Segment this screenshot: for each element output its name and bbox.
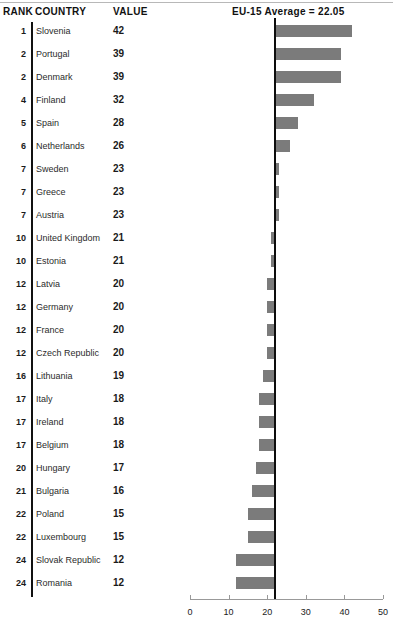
cell-rank: 7 <box>0 210 26 220</box>
cell-value: 18 <box>113 439 124 450</box>
cell-country: Czech Republic <box>36 348 99 358</box>
cell-rank: 17 <box>0 394 26 404</box>
table-row: 10United Kingdom21 <box>0 229 393 252</box>
cell-value: 21 <box>113 255 124 266</box>
table-row: 24Romania12 <box>0 574 393 597</box>
cell-country: Latvia <box>36 279 60 289</box>
cell-country: Lithuania <box>36 371 73 381</box>
cell-country: United Kingdom <box>36 233 100 243</box>
cell-value: 15 <box>113 531 124 542</box>
table-row: 5Spain28 <box>0 114 393 137</box>
cell-country: Slovenia <box>36 26 71 36</box>
cell-country: Denmark <box>36 72 73 82</box>
cell-rank: 1 <box>0 26 26 36</box>
table-row: 1Slovenia42 <box>0 22 393 45</box>
table-row: 6Netherlands26 <box>0 137 393 160</box>
cell-rank: 22 <box>0 532 26 542</box>
cell-country: Ireland <box>36 417 64 427</box>
cell-value: 26 <box>113 140 124 151</box>
cell-value: 39 <box>113 71 124 82</box>
table-row: 10Estonia21 <box>0 252 393 275</box>
cell-value: 32 <box>113 94 124 105</box>
cell-country: Luxembourg <box>36 532 86 542</box>
cell-rank: 16 <box>0 371 26 381</box>
cell-value: 39 <box>113 48 124 59</box>
cell-rank: 20 <box>0 463 26 473</box>
cell-rank: 5 <box>0 118 26 128</box>
table-row: 12France20 <box>0 321 393 344</box>
table-row: 4Finland32 <box>0 91 393 114</box>
cell-value: 23 <box>113 163 124 174</box>
cell-country: Germany <box>36 302 73 312</box>
cell-rank: 24 <box>0 555 26 565</box>
cell-country: Belgium <box>36 440 69 450</box>
cell-country: Netherlands <box>36 141 85 151</box>
cell-rank: 7 <box>0 187 26 197</box>
table-row: 7Austria23 <box>0 206 393 229</box>
cell-country: Finland <box>36 95 66 105</box>
cell-value: 20 <box>113 278 124 289</box>
cell-value: 42 <box>113 25 124 36</box>
cell-rank: 6 <box>0 141 26 151</box>
cell-country: Spain <box>36 118 59 128</box>
cell-rank: 24 <box>0 578 26 588</box>
cell-value: 28 <box>113 117 124 128</box>
cell-country: Italy <box>36 394 53 404</box>
cell-value: 20 <box>113 347 124 358</box>
table-row: 17Italy18 <box>0 390 393 413</box>
cell-rank: 22 <box>0 509 26 519</box>
cell-value: 20 <box>113 301 124 312</box>
cell-country: Poland <box>36 509 64 519</box>
cell-value: 17 <box>113 462 124 473</box>
cell-country: Greece <box>36 187 66 197</box>
cell-rank: 2 <box>0 72 26 82</box>
table-row: 17Belgium18 <box>0 436 393 459</box>
cell-value: 12 <box>113 577 124 588</box>
cell-value: 23 <box>113 186 124 197</box>
table-row: 12Czech Republic20 <box>0 344 393 367</box>
cell-rank: 2 <box>0 49 26 59</box>
cell-country: Hungary <box>36 463 70 473</box>
cell-rank: 17 <box>0 440 26 450</box>
table-row: 12Latvia20 <box>0 275 393 298</box>
table-row: 2Portugal39 <box>0 45 393 68</box>
table-row: 21Bulgaria16 <box>0 482 393 505</box>
cell-country: Estonia <box>36 256 66 266</box>
cell-value: 18 <box>113 416 124 427</box>
cell-value: 19 <box>113 370 124 381</box>
table-row: 2Denmark39 <box>0 68 393 91</box>
table-row: 22Luxembourg15 <box>0 528 393 551</box>
cell-country: Austria <box>36 210 64 220</box>
cell-value: 15 <box>113 508 124 519</box>
table-row: 22Poland15 <box>0 505 393 528</box>
cell-value: 20 <box>113 324 124 335</box>
cell-value: 18 <box>113 393 124 404</box>
cell-rank: 17 <box>0 417 26 427</box>
cell-value: 23 <box>113 209 124 220</box>
table-row: 17Ireland18 <box>0 413 393 436</box>
cell-country: Romania <box>36 578 72 588</box>
cell-rank: 7 <box>0 164 26 174</box>
cell-country: Slovak Republic <box>36 555 101 565</box>
cell-country: Portugal <box>36 49 70 59</box>
ranking-table: 1Slovenia422Portugal392Denmark394Finland… <box>0 0 393 617</box>
cell-rank: 10 <box>0 256 26 266</box>
cell-rank: 12 <box>0 279 26 289</box>
cell-rank: 4 <box>0 95 26 105</box>
table-row: 12Germany20 <box>0 298 393 321</box>
cell-rank: 21 <box>0 486 26 496</box>
cell-rank: 12 <box>0 348 26 358</box>
table-row: 7Greece23 <box>0 183 393 206</box>
table-row: 16Lithuania19 <box>0 367 393 390</box>
cell-rank: 12 <box>0 325 26 335</box>
cell-rank: 12 <box>0 302 26 312</box>
cell-country: Sweden <box>36 164 69 174</box>
table-row: 20Hungary17 <box>0 459 393 482</box>
cell-rank: 10 <box>0 233 26 243</box>
cell-value: 12 <box>113 554 124 565</box>
cell-country: France <box>36 325 64 335</box>
cell-country: Bulgaria <box>36 486 69 496</box>
cell-value: 21 <box>113 232 124 243</box>
table-row: 24Slovak Republic12 <box>0 551 393 574</box>
cell-value: 16 <box>113 485 124 496</box>
